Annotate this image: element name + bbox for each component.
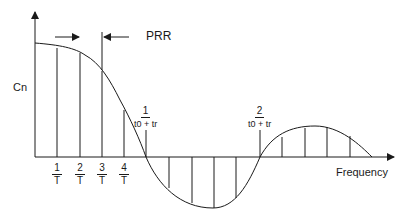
prr-label: PRR — [146, 31, 171, 42]
envelope-curve — [35, 43, 372, 208]
tick-label-2-over-T: 2 T — [75, 163, 85, 186]
tick-label-3-over-T: 3 T — [97, 163, 107, 186]
first-null-label: 1 t0 + tr — [132, 106, 159, 129]
x-axis-label: Frequency — [336, 167, 388, 178]
y-axis-label: Cn — [13, 82, 27, 93]
tick-label-4-over-T: 4 T — [119, 163, 129, 186]
tick-label-1-over-T: 1 T — [52, 163, 62, 186]
spectrum-diagram — [0, 0, 409, 222]
second-null-label: 2 t0 + tr — [246, 106, 273, 129]
